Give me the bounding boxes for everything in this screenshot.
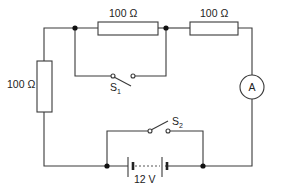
circuit-diagram: 100 Ω 100 Ω 100 Ω A S 1 S 2 12 V [0, 0, 282, 189]
wire-right [203, 99, 252, 166]
wire-bottom-left [44, 112, 128, 166]
wires [44, 28, 252, 166]
switch-s2-lever [151, 121, 168, 130]
resistor-top-right [190, 22, 238, 35]
resistor-top-left [98, 22, 158, 35]
switch-s2-contact-right [166, 129, 170, 133]
battery: 12 V [128, 157, 167, 185]
wire-s2-right [170, 131, 203, 166]
junction-dot [72, 25, 77, 30]
switch-s1: S 1 [110, 74, 135, 95]
ammeter: A [240, 75, 264, 99]
switch-s2-label: S [172, 115, 179, 127]
resistor-top-left-label: 100 Ω [109, 7, 137, 19]
switch-s1-label: S [110, 81, 117, 93]
resistor-left [37, 61, 52, 112]
ammeter-label: A [249, 81, 256, 93]
resistor-top-right-label: 100 Ω [200, 7, 228, 19]
resistor-left-label: 100 Ω [7, 78, 35, 90]
junction-dot [163, 25, 168, 30]
switch-s1-subscript: 1 [117, 88, 121, 95]
wire-top-left [44, 28, 98, 61]
wire-top-right [238, 28, 252, 75]
switch-s2-subscript: 2 [179, 122, 183, 129]
switch-s1-contact-right [131, 74, 135, 78]
junction-dot [200, 163, 205, 168]
battery-label: 12 V [134, 173, 156, 185]
switch-s2: S 2 [148, 115, 183, 133]
junction-dot [104, 163, 109, 168]
